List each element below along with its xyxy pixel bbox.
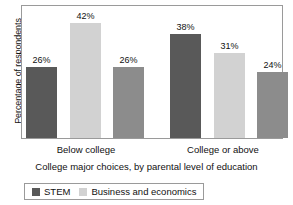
x-tick-label-below-college: Below college [27, 144, 145, 155]
chart-legend: STEMBusiness and economics [24, 183, 204, 200]
bar-value-label: 26% [32, 55, 50, 65]
bar[interactable] [257, 72, 288, 138]
bar-group: 38%31%24% [170, 6, 280, 138]
bars-container: 26%42%26%38%31%24% [22, 6, 282, 138]
bar-slot: 26% [113, 6, 144, 138]
bar-chart: Percentage of respondents 26%42%26%38%31… [0, 0, 293, 205]
x-tick-label-college-or-above: College or above [167, 144, 279, 155]
bar[interactable] [26, 67, 57, 139]
legend-entry[interactable]: STEM [32, 186, 70, 197]
legend-swatch-icon [79, 188, 87, 196]
plot-area: 26%42%26%38%31%24% [21, 5, 283, 139]
x-axis-tick-labels: Below college College or above [21, 144, 283, 158]
x-axis-title: College major choices, by parental level… [0, 161, 293, 172]
bar-value-label: 31% [220, 41, 238, 51]
bar-slot: 31% [214, 6, 245, 138]
bar-group: 26%42%26% [26, 6, 144, 138]
bar-value-label: 42% [76, 11, 94, 21]
bar[interactable] [113, 67, 144, 139]
bar-slot: 26% [26, 6, 57, 138]
legend-label: STEM [44, 186, 70, 197]
legend-entry[interactable]: Business and economics [79, 186, 196, 197]
legend-swatch-icon [32, 188, 40, 196]
bar-value-label: 26% [119, 55, 137, 65]
bar[interactable] [170, 34, 201, 139]
bar-slot: 38% [170, 6, 201, 138]
bar-slot: 24% [257, 6, 288, 138]
bar-value-label: 38% [176, 22, 194, 32]
bar-slot: 42% [70, 6, 101, 138]
bar[interactable] [214, 53, 245, 138]
legend-label: Business and economics [91, 186, 196, 197]
bar[interactable] [70, 23, 101, 139]
bar-value-label: 24% [263, 60, 281, 70]
